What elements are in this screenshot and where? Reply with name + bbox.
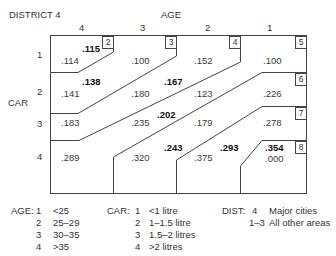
cell-r2-c4: .141 xyxy=(61,88,80,99)
cell-r3-c4: .183 xyxy=(61,117,80,128)
cell-r4-c2: .375 xyxy=(194,152,213,163)
cell-r3-c1: .278 xyxy=(263,117,282,128)
legend-age-code-4: 4 xyxy=(36,241,41,252)
legend-age-desc-4: >35 xyxy=(53,241,69,252)
region-7-value: .293 xyxy=(220,142,239,153)
cell-r2-c3: .180 xyxy=(131,88,150,99)
region-tag-6: 6 xyxy=(295,73,307,86)
legend-dist-desc-2: All other areas xyxy=(269,217,330,228)
cell-r4-c4: .289 xyxy=(61,152,80,163)
cell-r1-c3: .100 xyxy=(131,55,150,66)
region-4-value: .167 xyxy=(164,76,183,87)
region-tag-4: 4 xyxy=(229,36,241,49)
region-6-value: .243 xyxy=(164,142,183,153)
legend-age-label: AGE: xyxy=(11,205,34,216)
legend-car-code-1: 1 xyxy=(135,205,140,216)
legend-dist-code-1: 4 xyxy=(252,205,257,216)
cell-r2-c2: .123 xyxy=(194,88,213,99)
legend-dist-desc-1: Major cities xyxy=(269,205,317,216)
legend-age-code-2: 2 xyxy=(36,217,41,228)
region-tag-3: 3 xyxy=(165,36,177,49)
legend-car-desc-1: <1 litre xyxy=(149,205,178,216)
legend-dist-label: DIST: xyxy=(222,205,245,216)
legend-age-desc-1: <25 xyxy=(53,205,69,216)
region-8-value: .354 xyxy=(265,142,284,153)
legend-age-code-1: 1 xyxy=(36,205,41,216)
legend-age-desc-2: 25–29 xyxy=(53,217,79,228)
cell-r1-c1: .100 xyxy=(263,55,282,66)
legend-car-desc-2: 1–1.5 litre xyxy=(149,217,191,228)
cell-r3-c2: .179 xyxy=(194,117,213,128)
legend-car-code-2: 2 xyxy=(135,217,140,228)
region-5-value: .202 xyxy=(157,109,176,120)
region-3-value: .138 xyxy=(82,76,101,87)
region-tag-5: 5 xyxy=(295,36,307,49)
cell-r4-c3: .320 xyxy=(131,152,150,163)
legend-car-code-3: 3 xyxy=(135,229,140,240)
cell-r1-c2: .152 xyxy=(194,55,213,66)
cell-r2-c1: .226 xyxy=(263,88,282,99)
legend-car-desc-4: >2 litres xyxy=(149,241,183,252)
cell-r4-c1: .000 xyxy=(265,153,284,164)
legend-car-code-4: 4 xyxy=(135,241,140,252)
legend-age-desc-3: 30–35 xyxy=(53,229,79,240)
legend-dist-code-2: 1–3 xyxy=(249,217,265,228)
region-2-value: .115 xyxy=(82,43,100,54)
region-tag-7: 7 xyxy=(295,107,307,120)
legend-car-desc-3: 1.5–2 litres xyxy=(149,229,195,240)
cell-r3-c3: .235 xyxy=(131,117,150,128)
legend-age-code-3: 3 xyxy=(36,229,41,240)
cell-r1-c4: .114 xyxy=(61,55,79,66)
legend-car-label: CAR: xyxy=(107,205,130,216)
region-tag-8: 8 xyxy=(295,141,307,154)
region-tag-2: 2 xyxy=(102,36,114,49)
